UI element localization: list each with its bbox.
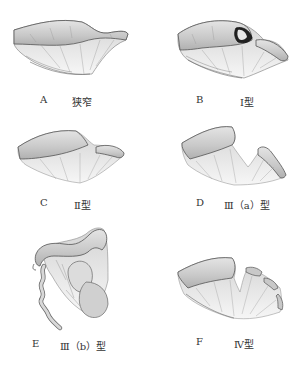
type3b-illustration <box>0 220 152 335</box>
panel-f-letter: F <box>196 336 203 347</box>
panel-c-caption: Ⅱ型 <box>74 197 91 212</box>
panel-a-caption: 狭窄 <box>72 94 92 109</box>
panel-f-type4: F Ⅳ型 <box>152 250 304 375</box>
panel-e-letter: E <box>32 338 39 349</box>
panel-e-type3b: E Ⅲ（b）型 <box>0 220 152 345</box>
panel-d-letter: D <box>196 197 204 208</box>
panel-a-stenosis: A 狭窄 <box>0 0 152 125</box>
panel-e-caption: Ⅲ（b）型 <box>60 338 106 353</box>
panel-a-letter: A <box>40 94 47 105</box>
type1-illustration <box>152 0 304 90</box>
panel-b-type1: B Ⅰ型 <box>152 0 304 125</box>
panel-d-caption: Ⅲ（a）型 <box>224 197 270 212</box>
panel-b-letter: B <box>196 94 203 105</box>
panel-f-caption: Ⅳ型 <box>234 336 254 351</box>
panel-d-type3a: D Ⅲ（a）型 <box>152 125 304 250</box>
panel-c-letter: C <box>40 197 48 208</box>
stenosis-illustration <box>0 0 152 90</box>
type4-illustration <box>152 250 304 340</box>
panel-b-caption: Ⅰ型 <box>240 94 254 109</box>
